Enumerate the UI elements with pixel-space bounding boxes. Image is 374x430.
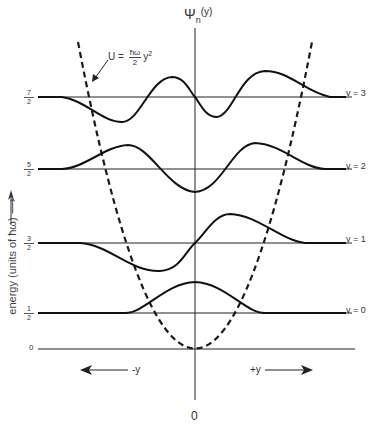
potential-lhs: U = bbox=[108, 51, 124, 62]
neg-y-label: -y bbox=[132, 364, 140, 375]
energy-numerator: 7 bbox=[24, 89, 34, 98]
energy-numerator: 3 bbox=[24, 235, 34, 244]
potential-denominator: 2 bbox=[133, 58, 137, 67]
psi-symbol: Ψ bbox=[184, 6, 196, 22]
energy-label-7-2: 72 bbox=[24, 89, 34, 106]
wavefunction-v0 bbox=[38, 282, 346, 313]
energy-denominator: 2 bbox=[24, 170, 34, 178]
energy-label-3-2: 32 bbox=[24, 235, 34, 252]
potential-fraction: ħω2 bbox=[129, 48, 142, 67]
level-label-v3: v = 3 bbox=[346, 88, 366, 98]
energy-denominator: 2 bbox=[24, 98, 34, 106]
potential-annotation-arrowhead bbox=[92, 74, 99, 82]
energy-denominator: 2 bbox=[24, 314, 34, 322]
harmonic-oscillator-diagram bbox=[0, 0, 374, 430]
wavefunction-v2 bbox=[38, 143, 346, 192]
origin-label: 0 bbox=[191, 409, 198, 423]
energy-label-1-2: 12 bbox=[24, 305, 34, 322]
energy-numerator: 5 bbox=[24, 161, 34, 170]
level-label-v2: v = 2 bbox=[346, 161, 366, 171]
energy-label-zero: 0 bbox=[29, 344, 33, 352]
energy-numerator: 1 bbox=[24, 305, 34, 314]
potential-exponent: 2 bbox=[148, 50, 152, 57]
energy-denominator: 2 bbox=[24, 244, 34, 252]
psi-axis-label: Ψn(y) bbox=[184, 6, 212, 25]
potential-numerator: ħω bbox=[129, 48, 142, 58]
potential-equation: U = ħω2y2 bbox=[108, 48, 152, 67]
pos-y-label: +y bbox=[250, 364, 261, 375]
potential-annotation-leader bbox=[95, 60, 108, 78]
level-label-v0: v = 0 bbox=[346, 305, 366, 315]
level-label-v1: v = 1 bbox=[346, 234, 366, 244]
energy-label-5-2: 52 bbox=[24, 161, 34, 178]
energy-axis-label: energy (units of ħω) ⟶ bbox=[6, 187, 19, 327]
psi-argument: (y) bbox=[201, 6, 213, 17]
